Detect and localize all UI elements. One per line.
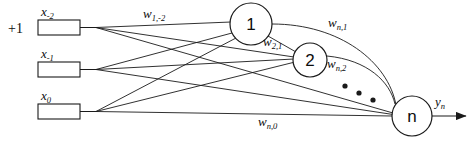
weight-subscript: 1,-2	[152, 13, 165, 23]
weight-symbol: w	[263, 34, 272, 49]
input-subscript: 0	[47, 95, 51, 105]
input-symbol: x	[41, 4, 47, 19]
input-box-x-minus-1	[38, 62, 80, 77]
weight-symbol: w	[327, 56, 336, 71]
input-label-x-0: x0	[41, 89, 51, 102]
input-label-x-minus-1: x-1	[41, 47, 54, 60]
input-stub-lines	[80, 28, 96, 112]
ellipsis-dot	[370, 97, 375, 102]
ellipsis-dot	[356, 90, 361, 95]
input-subscript: -1	[47, 53, 54, 63]
input-box-x-minus-2	[38, 20, 80, 35]
bias-label: +1	[8, 22, 23, 36]
neuron-1-label: 1	[246, 15, 255, 34]
weight-label-w-n-0: wn,0	[258, 115, 277, 128]
output-subscript: n	[441, 101, 445, 111]
weight-subscript: n,2	[336, 63, 347, 73]
input-symbol: x	[41, 46, 47, 61]
weight-symbol: w	[143, 6, 152, 21]
input-box-x-0	[38, 104, 80, 119]
weight-label-w-2-1: w2,1	[263, 35, 282, 48]
network-canvas: 1 2 n	[0, 0, 474, 146]
edges-from-input-x-minus-1	[96, 33, 393, 115]
input-subscript: -2	[47, 11, 54, 21]
input-symbol: x	[41, 88, 47, 103]
weight-subscript: n,1	[337, 22, 348, 32]
neural-network-diagram: 1 2 n +1 x-2 x-1 x0 w1,-2 w2,1 wn,1 wn,2…	[0, 0, 474, 146]
weight-label-w-n-2: wn,2	[327, 57, 346, 70]
neuron-2-label: 2	[305, 51, 314, 70]
output-label-y-n: yn	[435, 95, 445, 108]
weight-symbol: w	[328, 15, 337, 30]
input-boxes	[38, 20, 80, 119]
weight-label-w-1-minus-2: w1,-2	[143, 7, 165, 20]
ellipsis-dot	[342, 83, 347, 88]
output-symbol: y	[435, 94, 441, 109]
weight-subscript: n,0	[267, 121, 278, 131]
weight-symbol: w	[258, 114, 267, 129]
neuron-n-label: n	[407, 107, 416, 126]
weight-label-w-n-1: wn,1	[328, 16, 347, 29]
weight-subscript: 2,1	[272, 41, 283, 51]
input-label-x-minus-2: x-2	[41, 5, 54, 18]
